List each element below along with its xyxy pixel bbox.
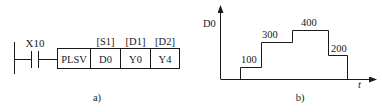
header-d1: [D1]: [126, 36, 146, 47]
instruction-name: PLSV: [61, 54, 87, 65]
step-label-400: 400: [301, 17, 317, 28]
y-axis-label: D0: [203, 18, 216, 29]
x-axis-label: t: [358, 79, 362, 90]
header-s1: [S1]: [96, 36, 114, 47]
operand-s1: D0: [99, 54, 112, 65]
step-label-300: 300: [262, 29, 278, 40]
figure: X10 PLSV D0 Y0 Y4 [S1] [D1] [D2] a) D0 t…: [0, 0, 382, 112]
header-d2: [D2]: [155, 36, 175, 47]
caption-b: b): [296, 92, 305, 104]
caption-a: a): [93, 92, 102, 104]
operand-d1: Y0: [129, 54, 142, 65]
step-chart: [221, 6, 377, 80]
step-label-200: 200: [331, 43, 347, 54]
step-label-100: 100: [241, 54, 257, 65]
operand-d2: Y4: [159, 54, 173, 65]
contact-label: X10: [26, 37, 45, 49]
